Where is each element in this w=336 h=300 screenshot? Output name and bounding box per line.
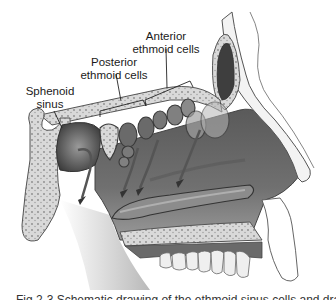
label-line: ethmoid cells	[132, 43, 200, 56]
label-line: Sphenoid	[20, 85, 80, 98]
label-anterior-ethmoid-cells: Anterior ethmoid cells	[132, 30, 200, 56]
upper-lip	[262, 198, 298, 281]
teeth	[160, 250, 250, 277]
label-line: ethmoid cells	[78, 69, 150, 82]
label-line: Anterior	[132, 30, 200, 43]
frontal-sinus	[217, 43, 234, 100]
label-sphenoid-sinus: Sphenoid sinus	[20, 85, 80, 111]
sphenoid-sinus	[56, 122, 100, 171]
label-posterior-ethmoid-cells: Posterior ethmoid cells	[78, 56, 150, 82]
figure-caption: Fig 2-3 Schematic drawing of the ethmoid…	[16, 291, 336, 300]
label-line: sinus	[20, 98, 80, 111]
label-line: Posterior	[78, 56, 150, 69]
